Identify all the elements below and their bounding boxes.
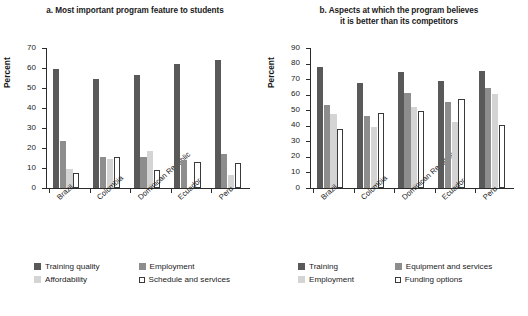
chart-a-legend: Training qualityEmploymentAffordabilityS… <box>34 262 262 284</box>
legend-item: Employment <box>139 262 262 271</box>
bar <box>458 99 464 188</box>
bar-group <box>357 48 384 188</box>
bar <box>174 64 180 188</box>
bar <box>100 157 106 188</box>
bar <box>60 141 66 188</box>
chart-a-y-tick: 60 <box>42 68 46 69</box>
chart-a-y-tick: 40 <box>42 108 46 109</box>
legend-label: Training <box>309 262 338 271</box>
chart-b-y-tick-label: 70 <box>266 74 300 83</box>
chart-a-y-tick-label: 30 <box>2 123 36 132</box>
chart-b-y-tick-label: 80 <box>266 58 300 67</box>
bar-group <box>93 48 120 188</box>
chart-b-y-tick-label: 60 <box>266 89 300 98</box>
bar <box>181 160 187 188</box>
chart-a-y-tick-label: 0 <box>2 183 36 192</box>
bar <box>364 116 370 188</box>
legend-item: Training <box>298 262 388 271</box>
bar <box>485 88 491 188</box>
legend-item: Training quality <box>34 262 132 271</box>
chart-b-y-tick-label: 90 <box>266 43 300 52</box>
chart-a-x-tick <box>211 189 212 193</box>
chart-a-title: a. Most important program feature to stu… <box>14 6 256 17</box>
legend-swatch-icon <box>298 276 305 283</box>
chart-b-y-tick: 20 <box>306 157 310 158</box>
chart-b-plot-area: 0102030405060708090BrazilColombiaDominic… <box>310 48 512 188</box>
chart-panel-b: b. Aspects at which the program believes… <box>264 0 528 316</box>
chart-b-legend: TrainingEquipment and servicesEmployment… <box>298 262 526 284</box>
bar <box>479 71 485 188</box>
chart-b-y-tick-label: 20 <box>266 151 300 160</box>
legend-swatch-icon <box>34 276 41 283</box>
bar <box>411 107 417 188</box>
chart-b-title: b. Aspects at which the program believes… <box>278 6 520 27</box>
chart-a-x-tick <box>130 189 131 193</box>
chart-a-plot-area: 010203040506070BrazilColombiaDominican R… <box>46 48 248 188</box>
chart-b-x-tick <box>435 189 436 193</box>
chart-a-x-tick <box>171 189 172 193</box>
chart-b-y-tick-label: 0 <box>266 183 300 192</box>
legend-label: Employment <box>150 262 195 271</box>
bar <box>317 67 323 188</box>
bar-group <box>317 48 344 188</box>
chart-a-title-text: a. Most important program feature to stu… <box>46 6 223 15</box>
chart-b-y-tick: 50 <box>306 110 310 111</box>
legend-item: Employment <box>298 275 388 284</box>
chart-a-y-tick: 10 <box>42 168 46 169</box>
bar <box>53 69 59 188</box>
chart-b-y-tick-label: 50 <box>266 105 300 114</box>
chart-a-x-tick <box>49 189 50 193</box>
chart-a-y-axis <box>46 48 47 188</box>
chart-b-y-tick: 60 <box>306 95 310 96</box>
bar-group <box>134 48 161 188</box>
legend-item: Funding options <box>395 275 526 284</box>
bar <box>235 163 241 188</box>
bar <box>357 83 363 188</box>
chart-b-x-tick <box>313 189 314 193</box>
chart-b-x-tick <box>475 189 476 193</box>
bar <box>398 72 404 188</box>
chart-a-y-tick-label: 70 <box>2 43 36 52</box>
chart-a-y-tick-label: 60 <box>2 63 36 72</box>
chart-b-y-tick: 80 <box>306 64 310 65</box>
chart-b-y-tick: 70 <box>306 79 310 80</box>
chart-b-title-line-2: it is better than its competitors <box>340 17 458 26</box>
bar <box>140 157 146 188</box>
legend-swatch-icon <box>395 263 402 270</box>
legend-swatch-icon <box>395 277 401 283</box>
bar <box>221 154 227 188</box>
chart-b-y-tick: 90 <box>306 48 310 49</box>
bar <box>93 79 99 188</box>
chart-a-y-tick: 50 <box>42 88 46 89</box>
chart-a-y-tick-label: 40 <box>2 103 36 112</box>
bar <box>324 105 330 188</box>
bar <box>337 129 343 188</box>
chart-b-x-tick <box>394 189 395 193</box>
chart-b-y-tick: 30 <box>306 141 310 142</box>
legend-swatch-icon <box>298 263 305 270</box>
chart-b-y-tick: 40 <box>306 126 310 127</box>
bar <box>330 114 336 188</box>
bar <box>134 75 140 188</box>
chart-a-y-tick-label: 50 <box>2 83 36 92</box>
legend-label: Affordability <box>45 275 87 284</box>
chart-b-y-tick-label: 40 <box>266 120 300 129</box>
bar <box>492 94 498 188</box>
bar <box>499 125 505 188</box>
bar-group <box>398 48 425 188</box>
bar-group <box>53 48 80 188</box>
legend-label: Schedule and services <box>149 275 230 284</box>
legend-swatch-icon <box>139 263 146 270</box>
chart-a-y-tick-label: 10 <box>2 163 36 172</box>
chart-b-y-axis <box>310 48 311 188</box>
bar <box>215 60 221 188</box>
bar-group <box>174 48 201 188</box>
chart-a-x-tick <box>90 189 91 193</box>
chart-b-x-tick <box>354 189 355 193</box>
chart-b-y-tick-label: 10 <box>266 167 300 176</box>
figure-root: a. Most important program feature to stu… <box>0 0 528 316</box>
chart-a-y-tick: 70 <box>42 48 46 49</box>
legend-label: Employment <box>309 275 354 284</box>
chart-a-y-tick: 20 <box>42 148 46 149</box>
chart-a-y-tick: 0 <box>42 188 46 189</box>
